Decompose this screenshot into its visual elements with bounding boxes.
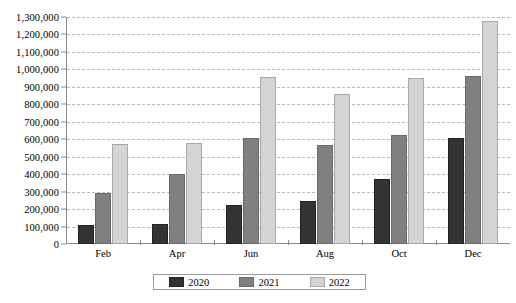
x-axis-labels: FebAprJunAugOctDec	[66, 246, 510, 266]
bar-2021-dec[interactable]	[465, 76, 481, 244]
y-axis-tick-label: 1,200,000	[16, 29, 59, 40]
bar-2022-apr[interactable]	[186, 143, 202, 244]
bar-2022-dec[interactable]	[482, 21, 498, 244]
bar-2020-apr[interactable]	[152, 224, 168, 244]
y-axis-tick-label: 100,000	[24, 221, 59, 232]
y-axis-tick-label: 1,100,000	[16, 46, 59, 57]
bar-2021-feb[interactable]	[95, 193, 111, 244]
y-axis: 1,300,0001,200,0001,100,0001,000,000900,…	[0, 17, 66, 244]
chart-legend: 202020212022	[153, 274, 366, 290]
legend-label: 2020	[188, 277, 209, 288]
legend-item-2021[interactable]: 2021	[239, 277, 279, 288]
bar-2020-jun[interactable]	[226, 205, 242, 244]
y-axis-tick-label: 300,000	[24, 186, 59, 197]
chart-title	[0, 0, 516, 2]
bars-layer	[66, 17, 510, 244]
bar-group	[288, 17, 362, 244]
bar-2021-aug[interactable]	[317, 145, 333, 244]
y-axis-tick-label: 400,000	[24, 169, 59, 180]
bar-2022-jun[interactable]	[260, 77, 276, 244]
legend-item-2020[interactable]: 2020	[169, 277, 209, 288]
x-axis-label-feb: Feb	[66, 248, 140, 259]
bar-2020-oct[interactable]	[374, 179, 390, 244]
category-separator	[214, 240, 215, 245]
bar-2022-aug[interactable]	[334, 94, 350, 244]
legend-swatch-icon	[239, 277, 254, 287]
bar-2021-jun[interactable]	[243, 138, 259, 245]
y-axis-tick-label: 900,000	[24, 81, 59, 92]
bar-group	[436, 17, 510, 244]
y-axis-tick-label: 500,000	[24, 151, 59, 162]
category-separator	[140, 240, 141, 245]
y-axis-tick-label: 800,000	[24, 99, 59, 110]
bar-2021-apr[interactable]	[169, 174, 185, 244]
bar-2022-feb[interactable]	[112, 144, 128, 244]
legend-label: 2021	[258, 277, 279, 288]
bar-group	[362, 17, 436, 244]
y-axis-tick-label: 1,000,000	[16, 64, 59, 75]
legend-item-2022[interactable]: 2022	[310, 277, 350, 288]
y-axis-tick-label: 1,300,000	[16, 12, 59, 23]
legend-swatch-icon	[310, 277, 325, 287]
bar-2021-oct[interactable]	[391, 135, 407, 244]
bar-2022-oct[interactable]	[408, 78, 424, 244]
bar-group	[140, 17, 214, 244]
category-separator	[288, 240, 289, 245]
legend-label: 2022	[329, 277, 350, 288]
bar-2020-feb[interactable]	[78, 225, 94, 244]
bar-2020-aug[interactable]	[300, 201, 316, 244]
y-axis-tick-label: 0	[54, 239, 59, 250]
y-axis-tick-label: 200,000	[24, 204, 59, 215]
x-axis-label-aug: Aug	[288, 248, 362, 259]
legend-swatch-icon	[169, 277, 184, 287]
category-separator	[362, 240, 363, 245]
category-separator	[436, 240, 437, 245]
x-axis-label-dec: Dec	[436, 248, 510, 259]
y-axis-tick-label: 600,000	[24, 134, 59, 145]
bar-2020-dec[interactable]	[448, 138, 464, 244]
bar-group	[214, 17, 288, 244]
x-axis-label-jun: Jun	[214, 248, 288, 259]
x-axis-label-apr: Apr	[140, 248, 214, 259]
bar-chart: 1,300,0001,200,0001,100,0001,000,000900,…	[0, 0, 516, 303]
x-axis-label-oct: Oct	[362, 248, 436, 259]
y-axis-tick-label: 700,000	[24, 116, 59, 127]
bar-group	[66, 17, 140, 244]
